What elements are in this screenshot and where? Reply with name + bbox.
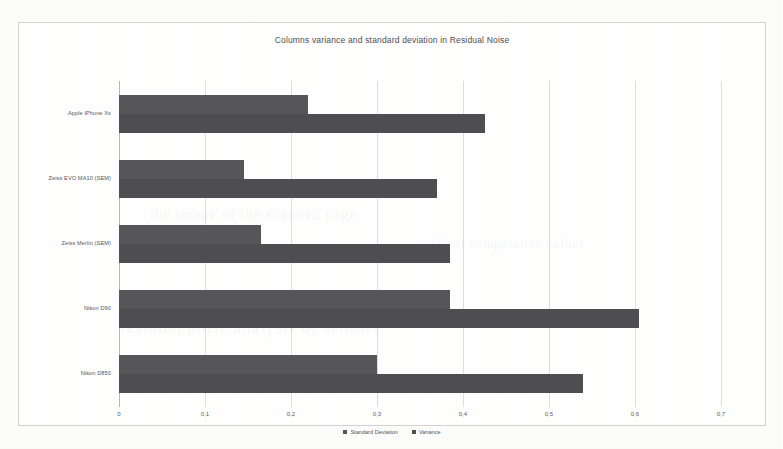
x-tick-label: 0,2: [287, 411, 295, 417]
chart-legend: Standard DeviationVariance: [19, 429, 765, 435]
scanned-page: the image of the scanned page residual n…: [0, 0, 783, 449]
x-tick-label: 0,1: [201, 411, 209, 417]
x-axis-tick-labels: 00,10,20,30,40,50,60,7: [119, 411, 729, 425]
bar-standard-deviation[interactable]: [119, 160, 244, 179]
legend-swatch-icon: [343, 430, 347, 434]
bar-variance[interactable]: [119, 244, 450, 263]
category-label: Nikon D850: [19, 370, 111, 376]
x-tick-label: 0: [117, 411, 120, 417]
category-label: Zeiss EVO MA10 (SEM): [19, 175, 111, 181]
category-label: Nikon D90: [19, 305, 111, 311]
x-tick-label: 0,5: [545, 411, 553, 417]
bar-variance[interactable]: [119, 309, 639, 328]
x-tick-label: 0,3: [373, 411, 381, 417]
category-label: Apple iPhone Xs: [19, 110, 111, 116]
category-label: Zeiss Merlin (SEM): [19, 240, 111, 246]
x-tick-label: 0,4: [459, 411, 467, 417]
chart-frame: Columns variance and standard deviation …: [18, 22, 766, 426]
legend-swatch-icon: [412, 430, 416, 434]
legend-item[interactable]: Variance: [412, 429, 441, 435]
bar-group: [119, 225, 721, 263]
chart-title: Columns variance and standard deviation …: [19, 35, 765, 45]
bar-variance[interactable]: [119, 179, 437, 198]
y-axis-category-labels: Apple iPhone XsZeiss EVO MA10 (SEM)Zeiss…: [19, 81, 115, 407]
bar-group: [119, 160, 721, 198]
x-tick-label: 0,7: [717, 411, 725, 417]
bar-group: [119, 290, 721, 328]
legend-label: Variance: [419, 429, 441, 435]
bar-group: [119, 355, 721, 393]
legend-label: Standard Deviation: [350, 429, 398, 435]
legend-item[interactable]: Standard Deviation: [343, 429, 398, 435]
plot-area: [119, 81, 721, 407]
bar-standard-deviation[interactable]: [119, 355, 377, 374]
bar-variance[interactable]: [119, 114, 485, 133]
gridline-0-7: [721, 81, 722, 407]
bar-group: [119, 95, 721, 133]
bar-standard-deviation[interactable]: [119, 95, 308, 114]
bar-standard-deviation[interactable]: [119, 225, 261, 244]
bar-standard-deviation[interactable]: [119, 290, 450, 309]
bar-variance[interactable]: [119, 374, 583, 393]
x-tick-label: 0,6: [631, 411, 639, 417]
